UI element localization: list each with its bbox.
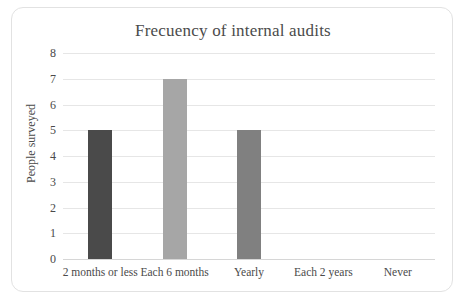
bar[interactable] — [88, 130, 112, 259]
bar[interactable] — [163, 79, 187, 259]
chart-frame: Frecuency of internal audits People surv… — [11, 7, 453, 292]
y-axis-tick-label: 7 — [50, 71, 56, 86]
x-axis-tick-label: Each 2 years — [294, 266, 353, 278]
y-axis-tick-label: 4 — [50, 149, 56, 164]
y-axis-tick-label: 3 — [50, 174, 56, 189]
bar-group: 2 months or less — [63, 53, 137, 259]
bar-group: Each 6 months — [137, 53, 211, 259]
gridline — [63, 259, 435, 260]
bars-layer: 2 months or lessEach 6 monthsYearlyEach … — [63, 53, 435, 259]
bar-group: Yearly — [212, 53, 286, 259]
x-axis-tick-label: 2 months or less — [63, 266, 138, 278]
bar-group: Each 2 years — [286, 53, 360, 259]
y-axis-tick-label: 1 — [50, 226, 56, 241]
y-axis-tick-label: 0 — [50, 252, 56, 267]
y-axis-title: People surveyed — [24, 84, 39, 204]
y-axis-tick-label: 6 — [50, 97, 56, 112]
bar[interactable] — [237, 130, 261, 259]
chart-title: Frecuency of internal audits — [12, 21, 454, 41]
y-axis-tick-label: 5 — [50, 123, 56, 138]
y-axis-tick-label: 2 — [50, 200, 56, 215]
plot-area: 012345678 2 months or lessEach 6 monthsY… — [63, 53, 435, 259]
y-axis-tick-label: 8 — [50, 46, 56, 61]
x-axis-tick-label: Yearly — [234, 266, 264, 278]
bar-group: Never — [361, 53, 435, 259]
x-axis-tick-label: Never — [384, 266, 412, 278]
x-axis-tick-label: Each 6 months — [140, 266, 208, 278]
